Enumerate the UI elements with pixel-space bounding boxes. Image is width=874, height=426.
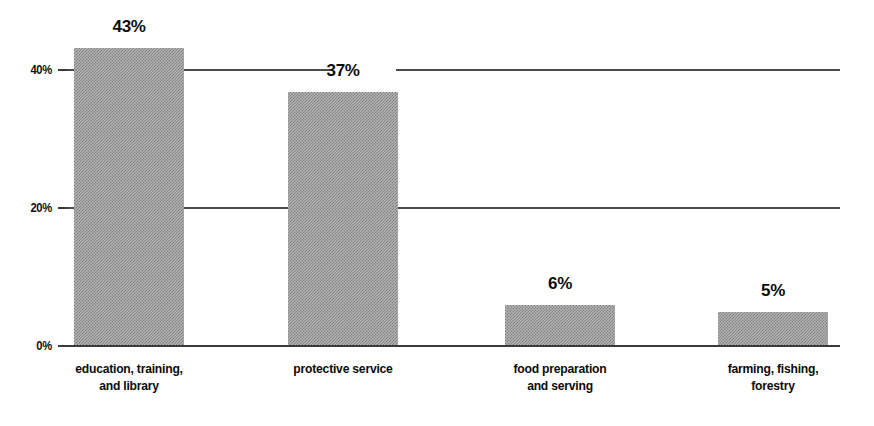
category-label-line-2: and serving xyxy=(484,377,637,394)
plot-area: 40% 20% 0% 43% 37% 6% 5% education, trai… xyxy=(0,0,874,426)
category-label-line-1: education, training, xyxy=(75,361,183,376)
x-axis-baseline xyxy=(64,345,840,347)
value-label-food-preparation-and-serving: 6% xyxy=(505,274,615,294)
bar-food-preparation-and-serving[interactable] xyxy=(505,305,615,346)
category-label-food-preparation-and-serving: food preparation and serving xyxy=(484,360,637,394)
gridline-40-right xyxy=(396,69,840,71)
category-label-line-1: food preparation xyxy=(514,361,607,376)
category-label-protective-service: protective service xyxy=(267,360,420,377)
category-label-line-2: and library xyxy=(53,377,206,394)
ytick-mark-40 xyxy=(58,69,67,71)
category-label-line-2: forestry xyxy=(697,377,850,394)
ytick-label-40: 40% xyxy=(7,62,52,77)
bar-education-training-and-library[interactable] xyxy=(74,48,184,346)
ytick-label-0: 0% xyxy=(7,338,52,353)
category-label-farming-fishing-forestry: farming, fishing, forestry xyxy=(697,360,850,394)
bar-farming-fishing-forestry[interactable] xyxy=(718,312,828,346)
value-label-education-training-and-library: 43% xyxy=(74,17,184,37)
bar-chart: 40% 20% 0% 43% 37% 6% 5% education, trai… xyxy=(0,0,874,426)
value-label-protective-service: 37% xyxy=(288,61,398,81)
category-label-education-training-and-library: education, training, and library xyxy=(53,360,206,394)
ytick-label-20: 20% xyxy=(7,200,52,215)
value-label-farming-fishing-forestry: 5% xyxy=(718,281,828,301)
category-label-line-1: protective service xyxy=(293,361,392,376)
bar-protective-service[interactable] xyxy=(288,92,398,346)
category-label-line-1: farming, fishing, xyxy=(728,361,819,376)
ytick-mark-20 xyxy=(58,207,67,209)
ytick-mark-0 xyxy=(58,345,67,347)
